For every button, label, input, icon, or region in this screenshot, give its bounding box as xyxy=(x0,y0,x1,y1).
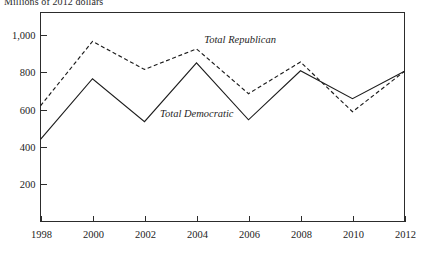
y-tick-label: 400 xyxy=(20,142,36,153)
data-series-group xyxy=(41,41,405,139)
x-tick-label: 2012 xyxy=(395,229,416,240)
y-tick-label: 1,000 xyxy=(12,30,36,41)
x-axis-tick-labels: 19982000200220042006200820102012 xyxy=(31,229,416,240)
series-annotations: Total RepublicanTotal Democratic xyxy=(160,34,276,119)
x-tick-label: 1998 xyxy=(31,229,52,240)
x-tick-label: 2000 xyxy=(83,229,104,240)
series-annotation: Total Democratic xyxy=(160,108,234,119)
y-tick-label: 600 xyxy=(20,105,36,116)
x-tick-label: 2002 xyxy=(135,229,156,240)
x-tick-label: 2004 xyxy=(187,229,209,240)
x-tick-label: 2010 xyxy=(343,229,364,240)
x-tick-label: 2008 xyxy=(291,229,312,240)
chart-figure: Millions of 2012 dollars 1,0008006004002… xyxy=(0,0,422,262)
y-tick-label: 800 xyxy=(20,67,36,78)
series-line-total-democratic xyxy=(41,63,405,140)
y-tick-label: 200 xyxy=(20,179,36,190)
y-axis-tick-labels: 1,000800600400200 xyxy=(12,30,36,190)
series-annotation: Total Republican xyxy=(204,34,276,45)
x-axis-ticks xyxy=(42,216,406,222)
series-line-total-republican xyxy=(41,41,405,111)
x-tick-label: 2006 xyxy=(239,229,260,240)
y-axis-ticks xyxy=(41,36,47,185)
line-chart-canvas: 1,000800600400200 1998200020022004200620… xyxy=(0,0,422,262)
